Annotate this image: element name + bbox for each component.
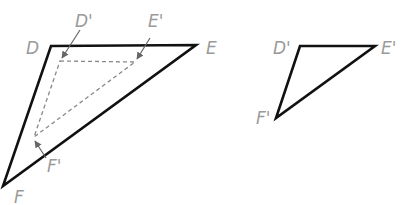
label-f: F	[14, 187, 24, 205]
right-label-f-prime: F'	[256, 108, 270, 128]
arrow-to-f-prime	[35, 141, 46, 158]
right-label-e-prime: E'	[381, 38, 396, 58]
label-f-prime: F'	[47, 156, 61, 176]
outer-triangle-def	[3, 45, 196, 186]
arrow-to-e-prime	[137, 38, 150, 59]
right-triangle-d-prime-e-prime-f-prime	[276, 46, 375, 118]
label-d: D	[26, 38, 39, 58]
label-d-prime: D'	[75, 11, 93, 31]
arrow-to-d-prime	[62, 30, 80, 58]
triangle-diagram: D E F D' E' F' D' E' F'	[0, 0, 420, 205]
label-e-prime: E'	[148, 11, 163, 31]
right-label-d-prime: D'	[273, 38, 291, 58]
label-e: E	[206, 38, 217, 58]
